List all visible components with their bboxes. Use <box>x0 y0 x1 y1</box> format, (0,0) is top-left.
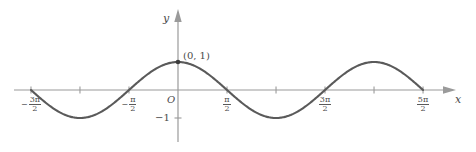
minus-sign: − <box>122 101 130 109</box>
origin-label: O <box>167 95 175 105</box>
graph-canvas <box>0 0 476 152</box>
minus-sign: − <box>21 101 29 109</box>
y-tick-value: 1 <box>163 112 169 123</box>
fraction-denominator: 2 <box>223 105 230 113</box>
y-tick-label-neg-one: −1 <box>155 113 170 123</box>
fraction-denominator: 2 <box>417 105 429 113</box>
x-tick-neg-3pi-over-2-label: −3π2 <box>13 96 49 113</box>
y-axis-arrow-icon <box>174 9 181 22</box>
point-marker-0-1 <box>176 60 181 65</box>
x-tick-5pi-over-2-label: 5π2 <box>405 96 441 113</box>
fraction-denominator: 2 <box>319 105 331 113</box>
fraction: π2 <box>129 96 136 113</box>
fraction: 3π2 <box>29 96 41 113</box>
cosine-graph-figure: y x O (0, 1) −1 −3π2−π2π23π25π2 <box>0 0 476 152</box>
annotation-point-0-1: (0, 1) <box>183 51 210 61</box>
fraction-denominator: 2 <box>129 105 136 113</box>
x-tick-pi-over-2-label: π2 <box>209 96 245 113</box>
x-axis-label: x <box>455 94 461 105</box>
x-tick-3pi-over-2-label: 3π2 <box>307 96 343 113</box>
fraction-denominator: 2 <box>29 105 41 113</box>
fraction: 5π2 <box>417 96 429 113</box>
fraction: π2 <box>223 96 230 113</box>
y-axis-label: y <box>163 13 169 24</box>
fraction: 3π2 <box>319 96 331 113</box>
x-tick-neg-pi-over-2-label: −π2 <box>111 96 147 113</box>
